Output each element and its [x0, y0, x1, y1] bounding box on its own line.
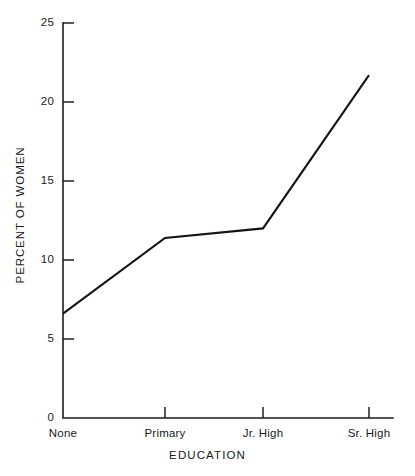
y-axis-title: PERCENT OF WOMEN — [14, 147, 26, 284]
y-tick-label-25: 25 — [20, 17, 54, 29]
x-axis-title: EDUCATION — [0, 449, 415, 461]
x-tick-label-sr-high: Sr. High — [348, 428, 391, 440]
x-tick-label-none: None — [49, 428, 77, 440]
y-tick-marks — [63, 23, 74, 339]
axis-lines — [63, 23, 393, 418]
line-chart-plot — [0, 0, 415, 476]
x-tick-marks — [165, 407, 369, 418]
y-tick-label-0: 0 — [20, 412, 54, 424]
x-tick-label-jr-high: Jr. High — [243, 428, 284, 440]
y-axis-title-container: PERCENT OF WOMEN — [6, 130, 34, 300]
y-tick-label-20: 20 — [20, 96, 54, 108]
x-tick-label-primary: Primary — [144, 428, 185, 440]
y-tick-label-5: 5 — [20, 333, 54, 345]
data-series-line — [63, 75, 369, 314]
chart-figure: 25 20 15 10 5 0 None Primary Jr. High Sr… — [0, 0, 415, 476]
